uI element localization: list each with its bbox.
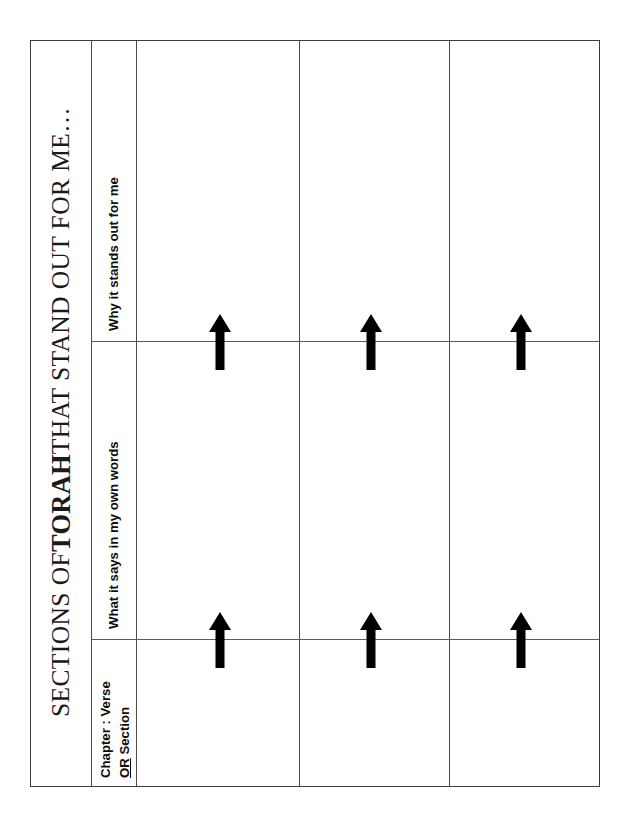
column-header-label-line1: Chapter : Verse [98,681,113,778]
column-header-chapter-verse: Chapter : Verse OR Section [91,639,136,788]
page-title-emphasis: TORAH [46,454,77,552]
column-header-label: Why it stands out for me [106,177,121,331]
table-cell[interactable] [299,639,449,786]
column-header-what-it-says: What it says in my own words [91,341,136,639]
table-cell[interactable] [299,41,449,341]
column-header-label: What it says in my own words [106,441,121,629]
page-title-prefix: SECTIONS OF [46,552,76,717]
table-cell[interactable] [299,341,449,639]
page-title: SECTIONS OF TORAH THAT STAND OUT FOR ME… [31,41,91,783]
table-cell[interactable] [449,639,599,786]
column-header-section-text: Section [117,707,132,758]
column-header-why-it-stands-out: Why it stands out for me [91,41,136,341]
worksheet-page: SECTIONS OF TORAH THAT STAND OUT FOR ME…… [0,0,629,826]
table-cell[interactable] [449,341,599,639]
table-cell[interactable] [136,639,299,786]
page-title-suffix: THAT STAND OUT FOR ME… [46,107,76,454]
column-header-label-line2: OR Section [115,639,134,778]
table-cell[interactable] [449,41,599,341]
table-cell[interactable] [136,41,299,341]
column-header-or-underlined: OR [117,758,132,778]
worksheet-table: SECTIONS OF TORAH THAT STAND OUT FOR ME…… [30,40,600,787]
table-cell[interactable] [136,341,299,639]
